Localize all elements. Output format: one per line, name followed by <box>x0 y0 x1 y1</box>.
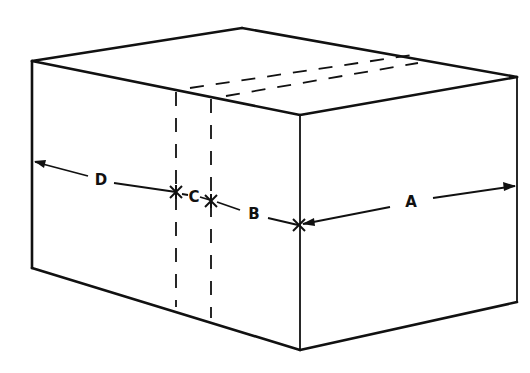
dimension-a-line-left <box>303 207 390 224</box>
top-front-right-edge <box>300 77 517 115</box>
dimension-a-line-right <box>433 186 515 198</box>
dashed-band <box>176 55 418 318</box>
arrowhead-right-icon <box>503 182 516 191</box>
top-front-left-edge <box>32 61 300 115</box>
tick-mark-icon <box>205 194 217 208</box>
arrowhead-left-icon <box>34 160 46 168</box>
bottom-left-edge <box>32 268 300 350</box>
label-d: D <box>95 171 107 189</box>
dimension-b-line-left <box>217 202 240 210</box>
dimension-d-line-right <box>114 183 176 192</box>
bottom-right-edge <box>300 302 517 350</box>
box-diagram: D C B A <box>0 0 530 373</box>
label-a: A <box>405 193 417 211</box>
label-c: C <box>188 188 199 206</box>
top-back-right-edge <box>242 28 517 77</box>
dashed-top-1 <box>190 55 412 88</box>
top-back-left-edge <box>32 28 242 61</box>
label-b: B <box>248 205 259 223</box>
